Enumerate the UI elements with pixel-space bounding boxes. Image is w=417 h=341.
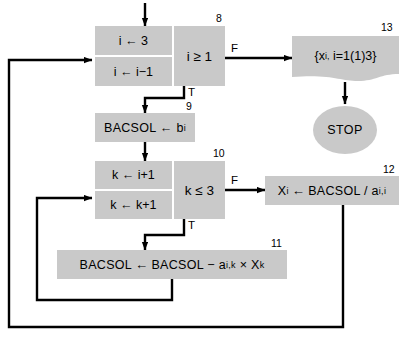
box-12-number: 12 — [383, 163, 395, 175]
node-box-8[interactable]: i ← 3 i ← i−1 i ≥ 1 — [95, 26, 225, 86]
box-8-true-label: T — [188, 86, 195, 98]
box-12-arrow: ← — [289, 183, 308, 198]
box-10-test: k ≤ 3 — [172, 161, 225, 219]
box-11-a-subscript: i,k — [226, 260, 236, 270]
box-8-test: i ≥ 1 — [172, 26, 225, 86]
box-13-text: {xi, i=1(1)3} — [292, 36, 399, 75]
box-13-label-sub: i, — [325, 51, 330, 61]
box-12-rhs-sub: i,i — [379, 186, 386, 196]
box-10-assignments: k ← i+1 k ← k+1 — [95, 161, 172, 219]
node-box-11[interactable]: BACSOL←BACSOL − ai,k × Xk — [57, 250, 287, 279]
box-12-rhs: BACSOL / a — [308, 184, 379, 198]
box-10-number: 10 — [213, 147, 225, 159]
box-9-number: 9 — [186, 100, 192, 112]
box-8-number: 8 — [216, 12, 222, 24]
box-11-arrow: ← — [132, 257, 151, 272]
node-box-9[interactable]: BACSOL ← bi — [95, 113, 195, 142]
box-13-number: 13 — [381, 21, 393, 33]
node-stop[interactable]: STOP — [313, 106, 377, 154]
box-10-false-label: F — [231, 174, 238, 186]
connector-10-true-to-11 — [145, 219, 184, 250]
box-9-subscript: i — [184, 123, 186, 133]
box-11-rhs-times: × X — [240, 258, 260, 272]
box-13-label-prefix: {x — [315, 49, 325, 63]
node-box-12[interactable]: Xi←BACSOL / ai,i — [265, 176, 399, 205]
box-8-assignments: i ← 3 i ← i−1 — [95, 26, 172, 86]
box-8-false-label: F — [231, 42, 238, 54]
box-11-x-subscript: k — [260, 260, 265, 270]
box-11-rhs-a: BACSOL − a — [151, 258, 225, 272]
box-11-number: 11 — [271, 237, 282, 249]
box-12-lhs: X — [278, 184, 287, 198]
box-11-lhs: BACSOL — [80, 258, 133, 272]
box-10-increment: k ← k+1 — [95, 191, 172, 219]
flowchart-canvas: i ← 3 i ← i−1 i ≥ 1 8 F T {xi, i=1(1)3} … — [0, 0, 417, 341]
box-13-label-rest: i=1(1)3} — [333, 49, 376, 63]
box-8-init: i ← 3 — [95, 26, 172, 57]
box-8-increment: i ← i−1 — [95, 57, 172, 86]
box-9-text: BACSOL ← b — [104, 121, 184, 135]
connector-8-true-to-9 — [145, 86, 184, 113]
node-box-13[interactable]: {xi, i=1(1)3} — [292, 36, 399, 83]
node-box-10[interactable]: k ← i+1 k ← k+1 k ≤ 3 — [95, 161, 225, 219]
box-10-init: k ← i+1 — [95, 161, 172, 191]
box-10-true-label: T — [188, 219, 195, 231]
